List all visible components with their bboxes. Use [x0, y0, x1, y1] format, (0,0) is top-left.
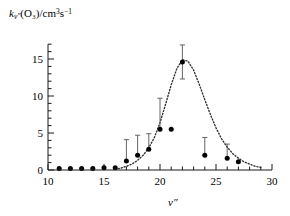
y-axis-label-species: (O₃) [20, 7, 39, 19]
data-point-marker [169, 127, 174, 132]
data-point-marker [225, 156, 230, 161]
y-tick-labels: 051015 [32, 53, 44, 176]
y-tick-label: 5 [38, 127, 44, 139]
data-point-marker [180, 59, 185, 64]
data-point-marker [158, 127, 163, 132]
x-tick-label: 30 [267, 175, 279, 187]
x-tick-labels: 1015202530 [43, 175, 279, 187]
data-point-marker [135, 153, 140, 158]
plot-area: 051015 1015202530 [0, 0, 290, 216]
data-point-marker [124, 159, 129, 164]
x-tick-label: 10 [43, 175, 55, 187]
x-tick-label: 20 [155, 175, 167, 187]
chart-figure: kv″(O₃)/cm3s−1 051015 1015202530 v″ [0, 0, 290, 216]
x-axis-label: v″ [168, 196, 177, 208]
x-tick-label: 25 [211, 175, 223, 187]
error-bars [124, 45, 230, 163]
data-points [57, 59, 241, 171]
y-tick-label: 15 [32, 53, 44, 65]
data-point-marker [146, 147, 151, 152]
y-axis-units-base-1: cm [43, 7, 56, 19]
y-tick-label: 10 [32, 90, 44, 102]
x-tick-label: 15 [99, 175, 111, 187]
y-axis-units-exponent-2: −1 [64, 7, 72, 16]
y-axis-label: kv″(O₃)/cm3s−1 [9, 7, 72, 21]
data-point-marker [202, 153, 207, 158]
data-point-marker [236, 159, 241, 164]
